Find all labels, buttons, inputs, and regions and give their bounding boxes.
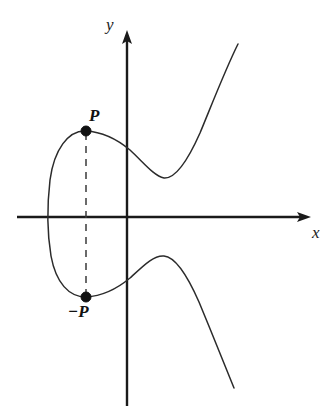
y-axis-label: y bbox=[106, 16, 114, 33]
x-axis bbox=[17, 212, 311, 222]
point-neg-p-dot bbox=[81, 292, 91, 302]
figure-canvas bbox=[0, 0, 333, 418]
point-p-dot bbox=[81, 126, 91, 136]
elliptic-curve-figure: y x P −P bbox=[0, 0, 333, 418]
curve-lower-branch bbox=[86, 256, 234, 388]
point-neg-p-label: −P bbox=[68, 303, 89, 320]
x-axis-label: x bbox=[312, 224, 320, 241]
curve-oval-component bbox=[48, 131, 86, 297]
curve-upper-branch bbox=[86, 44, 238, 178]
point-p-label: P bbox=[89, 107, 99, 124]
